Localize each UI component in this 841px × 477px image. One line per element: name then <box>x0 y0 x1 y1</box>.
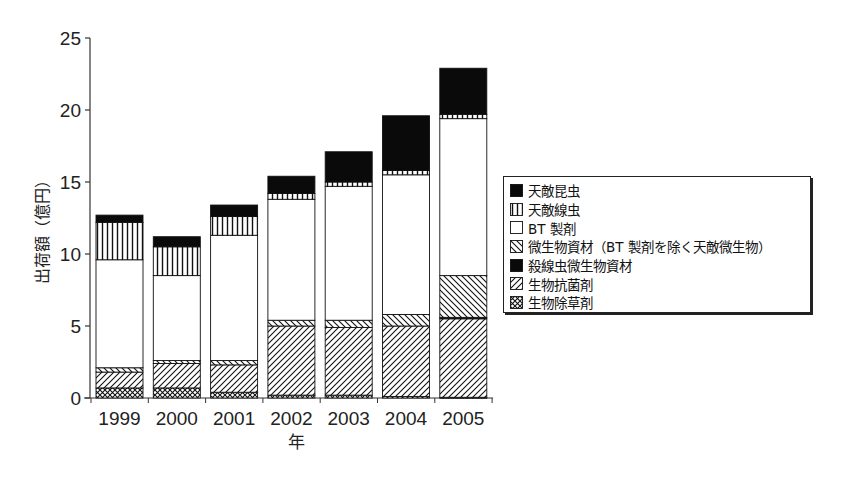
bar-2000 <box>153 237 200 398</box>
bar-segment <box>383 314 430 326</box>
diagonal-up-swatch-icon <box>510 277 523 290</box>
bar-segment <box>440 276 487 318</box>
bar-segment <box>153 247 200 276</box>
bar-2001 <box>211 205 258 398</box>
vertical-lines-swatch-icon <box>510 203 523 216</box>
y-tick-label: 20 <box>60 100 81 121</box>
legend-item: 殺線虫微生物資材 <box>510 256 810 275</box>
x-tick-label: 2002 <box>270 408 312 429</box>
legend-label: BT 製剤 <box>528 218 576 238</box>
x-axis-title: 年 <box>288 432 305 452</box>
bar-segment <box>153 237 200 247</box>
bar-segment <box>325 327 372 395</box>
bar-segment <box>268 320 315 326</box>
bar-segment <box>440 68 487 114</box>
bar-segment <box>268 194 315 200</box>
bar-segment <box>96 215 143 222</box>
bar-segment <box>211 235 258 360</box>
x-tick-label: 2000 <box>156 408 198 429</box>
white-swatch-icon <box>510 221 523 234</box>
bar-segment <box>325 320 372 327</box>
x-tick-label: 2005 <box>442 408 484 429</box>
legend-item: 天敵昆虫 <box>510 181 810 200</box>
bar-segment <box>211 205 258 217</box>
legend-label: 生物除草剤 <box>528 292 593 312</box>
bar-segment <box>153 363 200 387</box>
bar-segment <box>440 114 487 118</box>
bar-segment <box>325 182 372 186</box>
y-axis-title: 出荷額（億円） <box>33 172 52 284</box>
legend-item: 生物抗菌剤 <box>510 274 810 293</box>
bar-2004 <box>383 116 430 398</box>
bar-segment <box>440 319 487 397</box>
x-tick-label: 2001 <box>213 408 255 429</box>
diagonal-down-swatch-icon <box>510 240 523 253</box>
bar-segment <box>383 326 430 397</box>
bar-2003 <box>325 152 372 398</box>
legend-label: 殺線虫微生物資材 <box>528 255 632 275</box>
bar-segment <box>383 175 430 315</box>
bar-segment <box>268 326 315 395</box>
bar-segment <box>96 368 143 372</box>
bar-2002 <box>268 176 315 398</box>
legend-item: 天敵線虫 <box>510 200 810 219</box>
bar-segment <box>96 388 143 398</box>
y-tick-label: 10 <box>60 244 81 265</box>
bar-segment <box>153 388 200 398</box>
legend: 天敵昆虫天敵線虫BT 製剤微生物資材（BT 製剤を除く天敵微生物）殺線虫微生物資… <box>503 176 811 313</box>
y-tick-label: 5 <box>70 316 81 337</box>
solid-black-swatch-icon <box>510 259 523 272</box>
bar-1999 <box>96 215 143 398</box>
bar-segment <box>96 372 143 388</box>
bar-segment <box>383 170 430 174</box>
x-tick-label: 1999 <box>98 408 140 429</box>
bar-segment <box>325 152 372 182</box>
bar-segment <box>268 176 315 193</box>
bar-2005 <box>440 68 487 398</box>
bar-segment <box>325 186 372 320</box>
y-tick-label: 15 <box>60 172 81 193</box>
legend-label: 微生物資材（BT 製剤を除く天敵微生物） <box>528 236 771 256</box>
bar-segment <box>211 365 258 392</box>
x-tick-label: 2004 <box>385 408 428 429</box>
legend-item: BT 製剤 <box>510 218 810 237</box>
bar-segment <box>211 361 258 365</box>
solid-black-swatch-icon <box>510 184 523 197</box>
legend-label: 生物抗菌剤 <box>528 274 593 294</box>
bar-segment <box>211 392 258 398</box>
y-tick-label: 0 <box>70 388 81 409</box>
bar-segment <box>383 116 430 171</box>
legend-label: 天敵線虫 <box>528 199 580 219</box>
legend-label: 天敵昆虫 <box>528 180 580 200</box>
legend-item: 生物除草剤 <box>510 293 810 312</box>
bar-segment <box>96 222 143 259</box>
bar-segment <box>268 199 315 320</box>
bar-segment <box>153 276 200 361</box>
legend-item: 微生物資材（BT 製剤を除く天敵微生物） <box>510 237 810 256</box>
bar-segment <box>96 260 143 368</box>
y-tick-label: 25 <box>60 28 81 49</box>
bar-segment <box>211 217 258 236</box>
x-tick-label: 2003 <box>328 408 370 429</box>
bar-segment <box>440 119 487 276</box>
crosshatch-swatch-icon <box>510 296 523 309</box>
bars <box>96 68 487 398</box>
